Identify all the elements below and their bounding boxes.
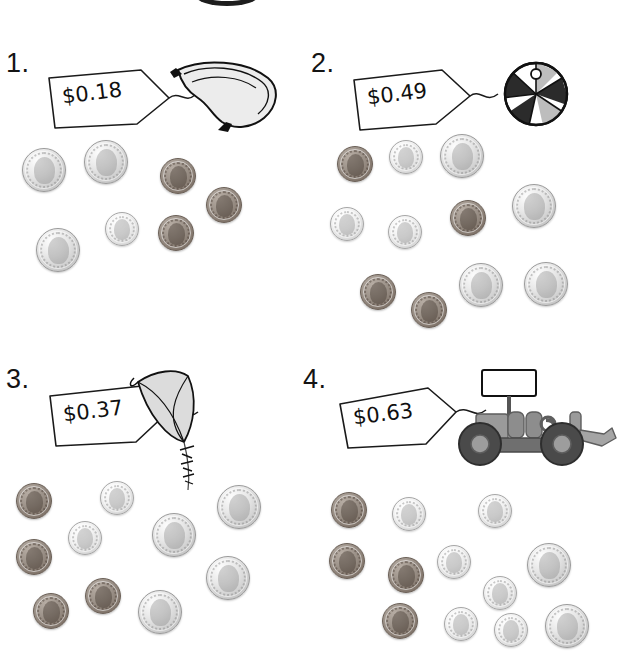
problem-number: 4. — [303, 364, 327, 395]
coin-dime — [388, 215, 422, 249]
coin-nickel — [217, 485, 261, 529]
banana-illustration — [168, 56, 288, 136]
coin-nickel — [84, 140, 128, 184]
coin-nickel — [36, 228, 80, 272]
worksheet-page: 1. $0.18 — [0, 0, 621, 654]
coin-penny — [331, 492, 367, 528]
coin-dime — [330, 207, 364, 241]
coin-penny — [158, 215, 194, 251]
coin-nickel — [512, 184, 556, 228]
coin-penny — [360, 274, 396, 310]
coin-dime — [68, 521, 102, 555]
clipped-top-graphic — [196, 0, 258, 6]
coin-penny — [85, 578, 121, 614]
coin-nickel — [206, 556, 250, 600]
beach-ball-illustration — [500, 58, 572, 130]
coin-nickel — [527, 543, 571, 587]
coin-penny — [450, 200, 486, 236]
coin-nickel — [545, 604, 589, 648]
coin-dime — [483, 576, 517, 610]
coin-penny — [337, 146, 373, 182]
coin-dime — [478, 494, 512, 528]
coin-nickel — [459, 263, 503, 307]
coin-dime — [444, 607, 478, 641]
coin-dime — [494, 613, 528, 647]
coin-penny — [160, 158, 196, 194]
coin-nickel — [152, 513, 196, 557]
coin-penny — [411, 292, 447, 328]
problem-number: 1. — [6, 48, 30, 79]
coin-nickel — [138, 590, 182, 634]
coin-portrait — [34, 157, 55, 184]
coin-penny — [329, 543, 365, 579]
coin-penny — [382, 603, 418, 639]
price-tag: $0.49 — [348, 64, 498, 134]
coin-nickel — [22, 148, 66, 192]
kite-illustration — [128, 364, 238, 494]
tractor-illustration — [440, 368, 620, 468]
coin-penny — [388, 557, 424, 593]
problem-number: 3. — [6, 364, 30, 395]
coin-nickel — [524, 262, 568, 306]
problem-number: 2. — [311, 48, 335, 79]
coin-dime — [100, 481, 134, 515]
coin-dime — [392, 497, 426, 531]
coin-nickel — [440, 134, 484, 178]
coin-dime — [437, 545, 471, 579]
coin-penny — [33, 593, 69, 629]
coin-penny — [16, 483, 52, 519]
coin-penny — [16, 539, 52, 575]
coin-penny — [206, 187, 242, 223]
coin-dime — [389, 140, 423, 174]
coin-dime — [105, 212, 139, 246]
